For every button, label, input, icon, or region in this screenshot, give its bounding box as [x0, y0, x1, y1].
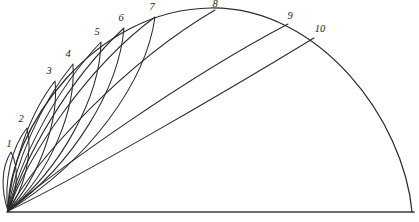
figure-canvas: 1 2 3 4 5 6 7 8 9 10	[0, 0, 419, 222]
curve-label-6: 6	[118, 12, 124, 23]
trajectory-curve-7	[8, 17, 155, 211]
trajectory-figure: 1 2 3 4 5 6 7 8 9 10	[0, 0, 419, 222]
curve-label-9: 9	[287, 10, 293, 21]
curve-label-10: 10	[315, 23, 326, 34]
curve-label-2: 2	[18, 113, 24, 124]
curve-label-4: 4	[65, 48, 71, 59]
trajectory-curve-9	[8, 24, 288, 211]
curve-label-1: 1	[6, 138, 11, 149]
trajectory-curve-10	[8, 38, 314, 211]
curve-label-3: 3	[45, 65, 51, 76]
curve-label-5: 5	[94, 26, 99, 37]
curve-label-7: 7	[149, 1, 155, 12]
curve-label-8: 8	[212, 0, 218, 9]
